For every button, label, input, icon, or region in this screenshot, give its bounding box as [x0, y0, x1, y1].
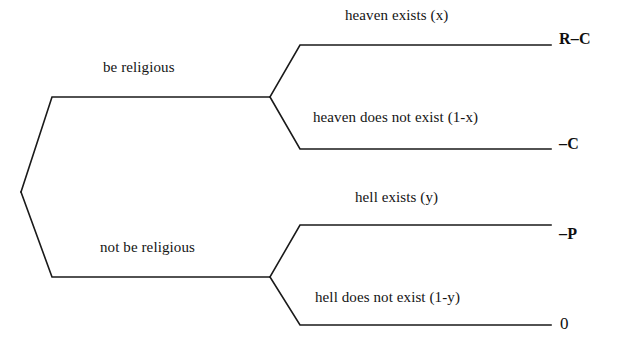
payoff-hell-does-not-exist: 0 — [560, 315, 569, 332]
decision-tree-canvas — [0, 0, 628, 355]
branch-label-not-be-religious: not be religious — [100, 240, 195, 255]
outcome-label-heaven-exists: heaven exists (x) — [345, 8, 448, 23]
heaven-exists-branch-edge — [270, 45, 551, 97]
outcome-label-hell-does-not-exist: hell does not exist (1-y) — [315, 290, 460, 305]
outcome-label-hell-exists: hell exists (y) — [355, 190, 438, 205]
branch-label-be-religious: be religious — [103, 60, 175, 75]
root-lower-branch-edge — [21, 192, 270, 277]
payoff-heaven-does-not-exist: –C — [559, 136, 579, 152]
payoff-heaven-exists: R–C — [559, 31, 591, 47]
outcome-label-heaven-does-not-exist: heaven does not exist (1-x) — [313, 110, 478, 125]
hell-exists-branch-edge — [270, 225, 551, 277]
root-upper-branch-edge — [21, 97, 270, 192]
payoff-hell-exists: –P — [559, 226, 577, 242]
